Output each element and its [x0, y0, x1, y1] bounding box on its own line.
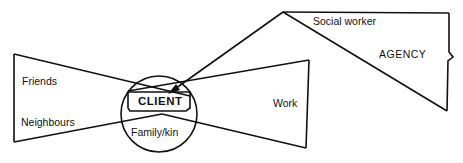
- neighbours-label: Neighbours: [21, 117, 75, 128]
- agency-label: AGENCY: [379, 49, 426, 60]
- friends-label: Friends: [22, 76, 57, 87]
- client-label: CLIENT: [138, 96, 183, 108]
- social-worker-link: [172, 12, 283, 91]
- family-kin-label: Family/kin: [131, 127, 178, 138]
- social-worker-label: Social worker: [313, 16, 376, 27]
- diagram-lines: [0, 0, 463, 163]
- work-label: Work: [273, 98, 297, 109]
- diagram-canvas: Friends Neighbours CLIENT Family/kin Wor…: [0, 0, 463, 163]
